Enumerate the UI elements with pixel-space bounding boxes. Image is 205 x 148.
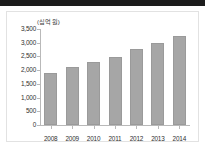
y-tick-label: 3,500 [21, 25, 36, 32]
y-tick-label: 2,000 [21, 66, 36, 73]
x-tick-mark [136, 126, 137, 129]
y-tick-mark [37, 70, 40, 71]
y-tick: 1,500 [40, 84, 41, 85]
plot-area: 05001,0001,5002,0002,5003,0003,500 20082… [40, 29, 190, 126]
y-tick-mark [37, 111, 40, 112]
y-tick: 500 [40, 111, 41, 112]
y-tick: 2,500 [40, 56, 41, 57]
y-axis-unit-label: (십억 원) [37, 17, 60, 26]
bar [109, 57, 122, 125]
chart-page: (십억 원) 05001,0001,5002,0002,5003,0003,50… [0, 0, 205, 148]
y-tick-label: 1,500 [21, 80, 36, 87]
x-tick-mark [115, 126, 116, 129]
y-tick-label: 3,000 [21, 39, 36, 46]
y-tick-mark [37, 29, 40, 30]
y-tick: 0 [40, 125, 41, 126]
bar [130, 49, 143, 125]
y-tick: 1,000 [40, 98, 41, 99]
y-tick-label: 2,500 [21, 52, 36, 59]
y-tick: 2,000 [40, 70, 41, 71]
bar [66, 67, 79, 125]
x-tick-mark [158, 126, 159, 129]
y-tick-mark [37, 43, 40, 44]
y-tick-label: 0 [33, 121, 36, 128]
bar [173, 36, 186, 125]
y-tick-label: 500 [26, 107, 36, 114]
y-tick: 3,000 [40, 43, 41, 44]
x-tick-label: 2014 [166, 135, 192, 142]
y-tick-mark [37, 98, 40, 99]
bar [44, 73, 57, 125]
top-black-bar [0, 0, 205, 6]
x-tick-mark [179, 126, 180, 129]
y-tick-mark [37, 56, 40, 57]
y-tick: 3,500 [40, 29, 41, 30]
y-tick-mark [37, 125, 40, 126]
x-tick-mark [51, 126, 52, 129]
y-tick-label: 1,000 [21, 94, 36, 101]
x-tick-mark [94, 126, 95, 129]
x-tick-mark [72, 126, 73, 129]
figure-frame: (십억 원) 05001,0001,5002,0002,5003,0003,50… [6, 11, 199, 142]
y-tick-mark [37, 84, 40, 85]
bar [151, 43, 164, 125]
bar [87, 62, 100, 125]
